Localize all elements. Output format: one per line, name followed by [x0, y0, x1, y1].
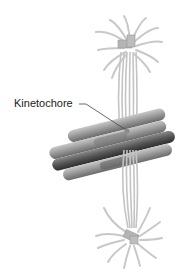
- chromosomes: [45, 106, 179, 183]
- bottom-centrosome: [123, 229, 139, 244]
- diagram-svg: [0, 0, 183, 274]
- kinetochore-marker: [125, 129, 130, 134]
- kinetochore-label: Kinetochore: [14, 97, 73, 109]
- top-centrosome: [118, 35, 135, 48]
- spindle-chromosome-diagram: Kinetochore: [0, 0, 183, 274]
